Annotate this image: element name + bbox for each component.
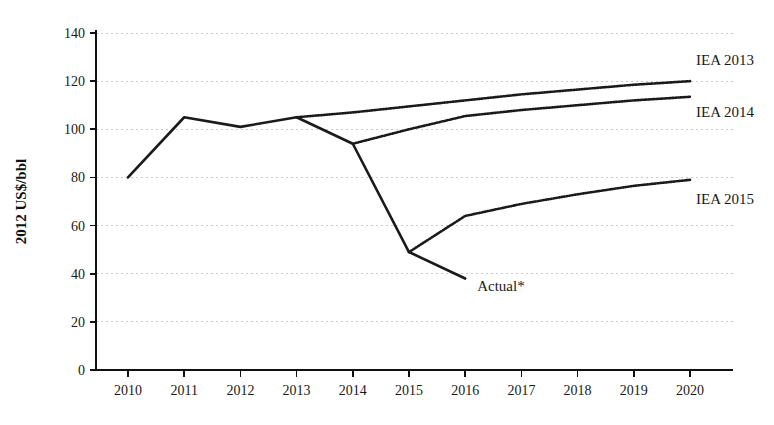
y-axis-title: 2012 US$/bbl [13,159,29,244]
y-tick-label: 120 [64,74,85,89]
x-tick-label: 2015 [395,383,423,398]
x-tick-label: 2013 [283,383,311,398]
series-line-actual [128,117,465,278]
gridlines-group [96,33,733,322]
x-tick-label: 2018 [564,383,592,398]
series-label-actual: Actual* [477,278,524,294]
series-label-iea-2013: IEA 2013 [696,52,754,68]
x-tick-label: 2014 [339,383,367,398]
y-tick-label: 140 [64,26,85,41]
x-tick-label: 2016 [451,383,479,398]
annotation-group: Actual*IEA 2013IEA 2014IEA 2015 [477,52,754,293]
x-tick-label: 2020 [676,383,704,398]
series-line-iea-2015 [409,180,690,252]
y-tick-label: 0 [78,363,85,378]
x-tick-label: 2017 [507,383,535,398]
series-label-iea-2015: IEA 2015 [696,191,754,207]
x-tick-label: 2012 [226,383,254,398]
x-tick-group: 2010201120122013201420152016201720182019… [114,370,704,398]
oil-price-forecast-chart: 020406080100120140 201020112012201320142… [0,0,774,425]
series-line-iea-2014 [353,97,690,144]
y-tick-label: 100 [64,122,85,137]
y-tick-group: 020406080100120140 [64,26,96,378]
x-tick-label: 2011 [170,383,197,398]
x-tick-label: 2010 [114,383,142,398]
x-tick-label: 2019 [620,383,648,398]
y-tick-label: 60 [71,219,85,234]
y-tick-label: 40 [71,267,85,282]
y-tick-label: 80 [71,170,85,185]
series-label-iea-2014: IEA 2014 [696,104,754,120]
chart-canvas: 020406080100120140 201020112012201320142… [0,0,774,425]
series-group [128,81,690,278]
y-tick-label: 20 [71,315,85,330]
